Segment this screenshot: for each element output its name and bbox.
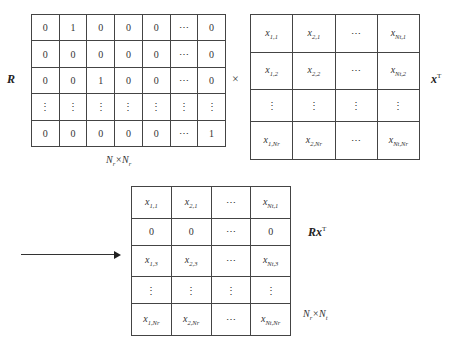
- matrix-cell: x1,Nr: [251, 122, 293, 160]
- matrix-cell: ⋮: [170, 94, 198, 120]
- matrix-cell: ⋯: [335, 15, 377, 53]
- matrix-cell: 0: [115, 41, 143, 67]
- matrix-cell: ⋮: [115, 94, 143, 120]
- matrix-row: 00100⋯0: [32, 67, 226, 93]
- matrix-cell: 0: [59, 67, 87, 93]
- matrix-row: x1,Nrx2,Nr⋯xNt,Nr: [132, 304, 291, 336]
- matrix-r-dimension: Nr×Nr: [106, 154, 131, 167]
- matrix-row: ⋮⋮⋮⋮⋮⋮⋮: [32, 94, 226, 120]
- matrix-cell: 0: [115, 120, 143, 146]
- matrix-cell: 1: [87, 67, 115, 93]
- matrix-cell: 0: [32, 67, 60, 93]
- matrix-cell: 0: [32, 41, 60, 67]
- matrix-row: x1,1x2,1⋯xNt,1: [251, 15, 420, 53]
- matrix-cell: ⋮: [132, 277, 172, 304]
- matrix-cell: xNt,2: [377, 52, 419, 90]
- matrix-cell: x1,1: [132, 187, 172, 219]
- dim-times: ×: [312, 308, 319, 319]
- rxt-base: Rx: [308, 225, 322, 239]
- matrix-r: 01000⋯000000⋯000100⋯0⋮⋮⋮⋮⋮⋮⋮00000⋯1: [31, 14, 226, 147]
- matrix-row: ⋮⋮⋮⋮: [132, 277, 291, 304]
- matrix-cell: ⋮: [335, 90, 377, 122]
- matrix-cell: ⋮: [377, 90, 419, 122]
- matrix-cell: 0: [132, 218, 172, 245]
- arrow-head-icon: [114, 251, 121, 259]
- matrix-row: 00000⋯1: [32, 120, 226, 146]
- matrix-cell: 0: [142, 15, 170, 41]
- matrix-cell: 0: [198, 15, 226, 41]
- matrix-cell: x2,3: [171, 245, 211, 277]
- matrix-cell: x1,Nr: [132, 304, 172, 336]
- matrix-cell: 0: [32, 15, 60, 41]
- matrix-cell: 0: [87, 15, 115, 41]
- matrix-cell: ⋯: [211, 187, 251, 219]
- matrix-row: 01000⋯0: [32, 15, 226, 41]
- matrix-x-transpose: x1,1x2,1⋯xNt,1x1,2x2,2⋯xNt,2⋮⋮⋮⋮x1,Nrx2,…: [250, 14, 420, 160]
- matrix-cell: x1,3: [132, 245, 172, 277]
- matrix-cell: 0: [115, 67, 143, 93]
- matrix-cell: xNt,Nr: [251, 304, 291, 336]
- matrix-cell: 0: [142, 67, 170, 93]
- dim-b-sub: r: [129, 160, 132, 167]
- matrix-cell: ⋮: [251, 277, 291, 304]
- matrix-row: 00⋯0: [132, 218, 291, 245]
- dim-b-sub: t: [326, 314, 328, 321]
- multiply-sign-text: ×: [232, 72, 239, 86]
- matrix-cell: ⋮: [87, 94, 115, 120]
- matrix-cell: 0: [198, 41, 226, 67]
- matrix-cell: 0: [32, 120, 60, 146]
- matrix-cell: 1: [198, 120, 226, 146]
- matrix-cell: ⋯: [170, 15, 198, 41]
- rxt-sup: T: [322, 225, 326, 233]
- matrix-row: x1,Nrx2,Nr⋯xNt,Nr: [251, 122, 420, 160]
- matrix-rx-transpose-label: RxT: [308, 225, 326, 240]
- matrix-row: x1,1x2,1⋯xNt,1: [132, 187, 291, 219]
- matrix-cell: 0: [87, 41, 115, 67]
- matrix-row: ⋮⋮⋮⋮: [251, 90, 420, 122]
- matrix-cell: 0: [251, 218, 291, 245]
- matrix-cell: xNt,3: [251, 245, 291, 277]
- matrix-cell: ⋯: [211, 304, 251, 336]
- matrix-cell: ⋯: [211, 218, 251, 245]
- matrix-cell: x2,Nr: [293, 122, 335, 160]
- matrix-cell: 0: [198, 67, 226, 93]
- dim-times: ×: [115, 154, 122, 165]
- matrix-rx-transpose-dimension: Nr×Nt: [303, 308, 327, 321]
- matrix-cell: xNt,1: [377, 15, 419, 53]
- multiply-sign: ×: [232, 72, 239, 87]
- matrix-cell: ⋮: [59, 94, 87, 120]
- matrix-cell: x1,1: [251, 15, 293, 53]
- matrix-cell: x2,2: [293, 52, 335, 90]
- dim-b: N: [122, 154, 129, 165]
- matrix-cell: x2,1: [293, 15, 335, 53]
- matrix-cell: 0: [59, 120, 87, 146]
- matrix-cell: ⋮: [142, 94, 170, 120]
- dim-a: N: [303, 308, 310, 319]
- matrix-cell: 0: [171, 218, 211, 245]
- matrix-row: x1,2x2,2⋯xNt,2: [251, 52, 420, 90]
- matrix-cell: ⋯: [335, 122, 377, 160]
- matrix-cell: ⋯: [170, 67, 198, 93]
- matrix-r-label: R: [7, 72, 15, 87]
- matrix-row: 00000⋯0: [32, 41, 226, 67]
- matrix-cell: x2,Nr: [171, 304, 211, 336]
- matrix-r-label-text: R: [7, 72, 15, 86]
- matrix-cell: 0: [142, 120, 170, 146]
- matrix-cell: ⋮: [198, 94, 226, 120]
- matrix-cell: xNt,Nr: [377, 122, 419, 160]
- matrix-cell: 0: [115, 15, 143, 41]
- matrix-x-transpose-label: xT: [431, 72, 441, 87]
- matrix-row: x1,3x2,3⋯xNt,3: [132, 245, 291, 277]
- matrix-cell: x1,2: [251, 52, 293, 90]
- matrix-cell: 0: [142, 41, 170, 67]
- matrix-cell: x2,1: [171, 187, 211, 219]
- matrix-cell: ⋮: [171, 277, 211, 304]
- matrix-cell: xNt,1: [251, 187, 291, 219]
- matrix-cell: ⋯: [170, 120, 198, 146]
- dim-b: N: [319, 308, 326, 319]
- matrix-cell: 1: [59, 15, 87, 41]
- matrix-cell: ⋮: [251, 90, 293, 122]
- dim-a: N: [106, 154, 113, 165]
- matrix-cell: ⋮: [293, 90, 335, 122]
- matrix-cell: ⋯: [335, 52, 377, 90]
